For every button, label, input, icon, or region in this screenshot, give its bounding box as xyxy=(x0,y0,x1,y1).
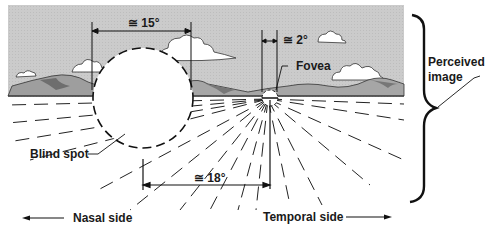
perceived-image-label-line1: Perceived xyxy=(428,56,485,68)
nasal-side-label: Nasal side xyxy=(73,212,132,224)
blind-spot-circle xyxy=(93,48,193,148)
visual-field-diagram xyxy=(0,0,489,231)
nasal-arrow xyxy=(22,216,64,221)
blind-spot-label: Blind spot xyxy=(30,148,89,160)
fovea-label: Fovea xyxy=(296,60,331,72)
angle-label-18deg: ≅ 18° xyxy=(194,172,225,184)
perceived-image-label-line2: image xyxy=(428,71,463,83)
angle-label-15deg: ≅ 15° xyxy=(128,17,159,29)
temporal-side-label: Temporal side xyxy=(263,211,343,223)
angle-label-2deg: ≅ 2° xyxy=(283,34,308,46)
temporal-arrow xyxy=(346,215,392,220)
perceived-image-brace xyxy=(410,15,436,202)
